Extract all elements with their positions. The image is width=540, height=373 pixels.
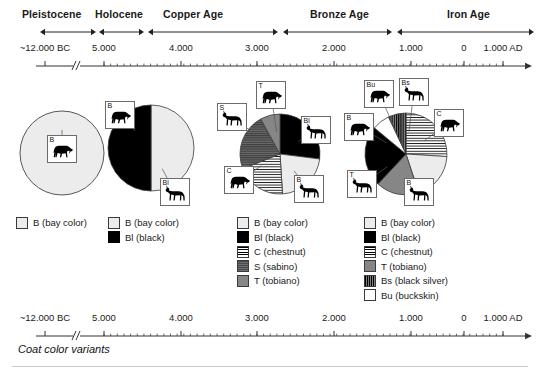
era-arrow-2 [148,29,278,35]
legend-item-B: B (bay color) [108,216,179,230]
legend-item-Bs: Bs (black silver) [364,274,448,288]
axis-top-tick-label: ~12.000 BC [20,42,70,53]
coat-color-timeline-figure: PleistoceneHoloceneCopper AgeBronze AgeI… [0,0,540,373]
era-arrow-1 [99,29,144,35]
legend-label-Bl: Bl (black) [381,232,421,243]
horse-silhouette-icon [402,83,427,103]
timeline-axis-top: ~12.000 BC5.0004.0003.0002.0001.00001.00… [0,42,540,72]
legend-1: B (bay color) Bl (black) [108,216,179,245]
legend-label-Bl: Bl (black) [125,232,165,243]
horse-silhouette-icon [220,108,245,128]
callout-leader-line [409,104,413,132]
legend-swatch-Bl [108,231,120,243]
coat-callout-B: B [47,135,77,163]
axis-top-tick-label: 1.000 AD [483,42,522,53]
legend-item-S: S (sabino) [237,260,308,274]
horse-silhouette-icon [163,183,188,203]
legend-label-Bl: Bl (black) [254,232,294,243]
horse-silhouette-icon [347,118,372,138]
pie-chart-area: B B Bl T S [0,78,540,208]
horse-silhouette-icon [304,121,329,141]
legend-swatch-B [108,217,120,229]
legend-label-C: C (chestnut) [254,246,306,257]
legend-swatch-Bu [364,289,376,301]
timeline-axis-bottom: ~12.000 BC5.0004.0003.0002.0001.00001.00… [0,312,540,342]
legend-label-S: S (sabino) [254,261,297,272]
coat-callout-Bl: Bl [301,116,331,144]
axis-top-tick-label: 3.000 [245,42,269,53]
axis-bottom-tick-label: 1.000 AD [483,312,522,323]
coat-callout-S: S [217,103,247,131]
axis-top-tick-label: 1.000 [399,42,423,53]
coat-callout-B: B [344,113,374,141]
coat-callout-T: T [256,81,286,109]
legend-label-B: B (bay color) [381,217,435,228]
coat-callout-T: T [347,170,377,198]
legend-swatch-Bl [237,231,249,243]
legend-swatch-B [16,217,28,229]
period-label-pleistocene: Pleistocene [22,8,81,20]
axis-top-tick-label: 4.000 [169,42,193,53]
horse-silhouette-icon [367,85,392,105]
legend-item-B: B (bay color) [16,216,87,230]
coat-callout-C: C [434,109,464,137]
axis-bottom-tick-label: 4.000 [169,312,193,323]
legend-swatch-C [237,246,249,258]
horse-silhouette-icon [437,114,462,134]
period-label-holocene: Holocene [95,8,143,20]
era-arrow-4 [397,29,534,35]
horse-silhouette-icon [50,140,75,160]
legend-swatch-Bl [364,231,376,243]
legend-swatch-S [237,260,249,272]
era-arrow-bar [0,25,540,39]
axis-bottom-tick-label: 5.000 [92,312,116,323]
pie-slice-Bu [374,117,406,154]
coat-callout-C: C [224,166,254,194]
pie-slice-Bs [389,113,406,154]
period-label-copper-age: Copper Age [163,8,223,20]
legend-area: B (bay color) B (bay color) Bl (black) B… [0,210,540,305]
figure-caption: Coat color variants [18,343,110,355]
legend-item-C: C (chestnut) [364,245,448,259]
legend-swatch-B [237,217,249,229]
legend-item-Bu: Bu (buckskin) [364,289,448,303]
axis-top-tick-label: 5.000 [92,42,116,53]
horse-silhouette-icon [259,86,284,106]
axis-bottom-tick-label: 3.000 [245,312,269,323]
legend-label-T: T (tobiano) [254,275,300,286]
callout-leader-line [384,105,397,134]
legend-swatch-C [364,246,376,258]
coat-callout-B: B [294,175,324,203]
coat-callout-B: B [404,178,434,206]
legend-label-Bs: Bs (black silver) [381,275,448,286]
coat-callout-Bs: Bs [399,78,429,106]
era-arrow-0 [40,29,96,35]
axis-top-tick-label: 2.000 [322,42,346,53]
legend-item-T: T (tobiano) [364,260,448,274]
horse-silhouette-icon [297,180,322,200]
legend-label-Bu: Bu (buckskin) [381,290,439,301]
horse-silhouette-icon [350,175,375,195]
legend-swatch-T [237,275,249,287]
coat-callout-Bl: Bl [160,178,190,206]
bottom-rule [12,366,528,367]
horse-silhouette-icon [227,171,252,191]
callout-leader-line [273,107,277,133]
legend-3: B (bay color) Bl (black) C (chestnut) T … [364,216,448,303]
period-label-iron-age: Iron Age [447,8,490,20]
legend-item-T: T (tobiano) [237,274,308,288]
coat-callout-B: B [105,101,135,129]
legend-item-C: C (chestnut) [237,245,308,259]
axis-bottom-tick-label: ~12.000 BC [20,312,70,323]
coat-callout-Bu: Bu [364,80,394,108]
axis-bottom-tick-label: 2.000 [322,312,346,323]
legend-label-T: T (tobiano) [381,261,427,272]
legend-item-B: B (bay color) [237,216,308,230]
legend-label-B: B (bay color) [125,217,179,228]
legend-item-Bl: Bl (black) [237,231,308,245]
legend-swatch-Bs [364,275,376,287]
axis-bottom-tick-label: 0 [461,312,466,323]
legend-item-Bl: Bl (black) [364,231,448,245]
legend-label-C: C (chestnut) [381,246,433,257]
legend-label-B: B (bay color) [33,217,87,228]
